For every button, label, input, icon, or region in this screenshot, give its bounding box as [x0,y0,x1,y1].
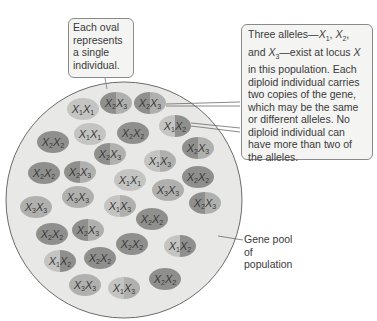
gene-pool-label: Gene pool of population [244,233,304,271]
gene-pool-label-text: Gene pool of population [244,233,292,270]
alleles-callout-text: Three alleles—X1, X2, and X3—exist at lo… [248,28,361,163]
oval-callout-text: Each oval represents a single individual… [73,21,123,71]
alleles-callout: Three alleles—X1, X2, and X3—exist at lo… [241,24,373,160]
oval-callout: Each oval represents a single individual… [68,18,134,78]
